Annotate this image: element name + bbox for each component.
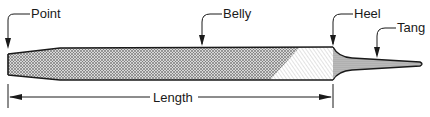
label-belly: Belly: [223, 6, 252, 21]
length-dimension: Length: [8, 84, 333, 108]
arrow-down-icon: [374, 47, 380, 58]
arrow-down-icon: [5, 38, 11, 49]
label-tang: Tang: [397, 20, 425, 35]
label-point: Point: [31, 6, 61, 21]
tang-callout: Tang: [374, 20, 425, 58]
label-length: Length: [153, 90, 193, 105]
arrow-down-icon: [330, 35, 336, 46]
point-callout: Point: [5, 6, 61, 49]
heel-callout: Heel: [330, 6, 381, 46]
file-body: [8, 47, 333, 80]
belly-callout: Belly: [199, 6, 252, 46]
arrow-right-icon: [319, 94, 332, 100]
label-heel: Heel: [354, 6, 381, 21]
arrow-left-icon: [9, 94, 22, 100]
arrow-down-icon: [199, 35, 205, 46]
file-diagram: Point Belly Heel Tang Length: [0, 0, 430, 117]
